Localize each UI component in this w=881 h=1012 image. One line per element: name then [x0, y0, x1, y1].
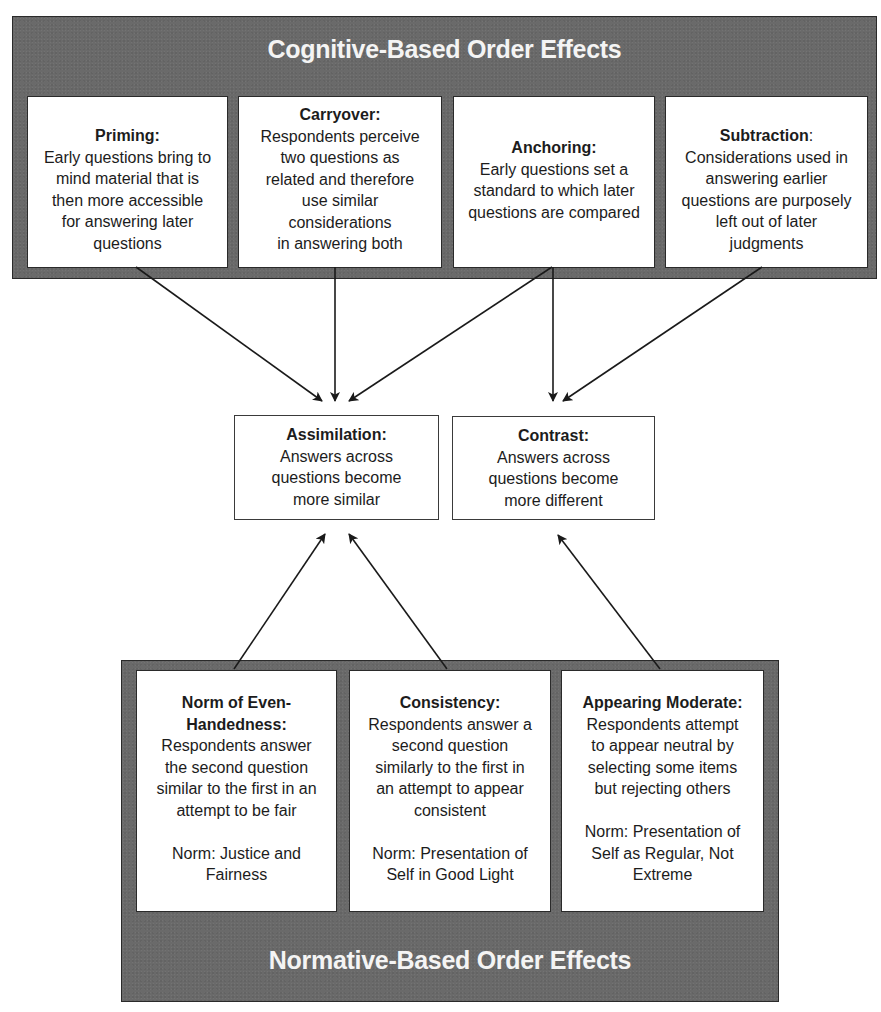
even-handedness-norm-line: Norm: Justice and	[172, 843, 301, 865]
arrow-even-handedness-to-assimilation	[234, 534, 325, 669]
subtraction-text-line: questions are purposely	[682, 190, 852, 212]
appearing-moderate-heading: Appearing Moderate:	[582, 692, 742, 714]
subtraction-text-line: Considerations used in	[685, 147, 848, 169]
assimilation-box: Assimilation: Answers across questions b…	[234, 415, 439, 520]
priming-text-line: mind material that is	[56, 168, 199, 190]
subtraction-text-line: answering earlier	[706, 168, 828, 190]
even-handedness-heading: Handedness:	[186, 714, 286, 736]
carryover-text-line: considerations	[288, 212, 391, 234]
arrow-anchoring-to-assimilation	[349, 267, 552, 401]
arrow-consistency-to-assimilation	[349, 534, 447, 669]
subtraction-heading-colon: :	[809, 127, 813, 144]
consistency-norm-line: Norm: Presentation of	[372, 843, 528, 865]
subtraction-box: Subtraction: Considerations used in answ…	[665, 96, 868, 268]
priming-heading: Priming:	[95, 125, 160, 147]
appearing-moderate-norm-line: Norm: Presentation of	[585, 821, 741, 843]
assimilation-text-line: more similar	[293, 489, 380, 511]
consistency-text-line: second question	[392, 735, 509, 757]
appearing-moderate-norm-line: Extreme	[633, 864, 693, 886]
priming-text-line: questions	[93, 233, 162, 255]
arrow-subtraction-to-contrast	[563, 267, 762, 401]
priming-box: Priming: Early questions bring to mind m…	[27, 96, 228, 268]
assimilation-text-line: Answers across	[280, 446, 393, 468]
arrow-appearing-moderate-to-contrast	[558, 535, 660, 669]
even-handedness-box: Norm of Even- Handedness: Respondents an…	[136, 670, 337, 912]
anchoring-box: Anchoring: Early questions set a standar…	[453, 96, 655, 268]
even-handedness-text-line: attempt to be fair	[176, 800, 296, 822]
priming-text-line: then more accessible	[52, 190, 203, 212]
consistency-text-line: an attempt to appear	[376, 778, 524, 800]
contrast-box: Contrast: Answers across questions becom…	[452, 416, 655, 520]
even-handedness-heading: Norm of Even-	[182, 692, 291, 714]
priming-text-line: for answering later	[62, 211, 194, 233]
contrast-text-line: more different	[504, 490, 602, 512]
arrow-priming-to-assimilation	[136, 267, 322, 401]
appearing-moderate-text-line: Respondents attempt	[586, 714, 738, 736]
even-handedness-text-line: the second question	[165, 757, 308, 779]
anchoring-text-line: questions are compared	[468, 202, 640, 224]
appearing-moderate-norm-line: Self as Regular, Not	[591, 843, 733, 865]
consistency-text-line: Respondents answer a	[368, 714, 532, 736]
appearing-moderate-text-line: selecting some items	[588, 757, 737, 779]
consistency-box: Consistency: Respondents answer a second…	[349, 670, 551, 912]
contrast-heading: Contrast:	[518, 425, 589, 447]
even-handedness-text-line: Respondents answer	[161, 735, 311, 757]
contrast-text-line: questions become	[489, 468, 619, 490]
subtraction-text-line: left out of later	[716, 211, 817, 233]
carryover-box: Carryover: Respondents perceive two ques…	[238, 96, 442, 268]
carryover-text-line: related and therefore	[266, 169, 415, 191]
carryover-text-line: use similar	[302, 190, 378, 212]
priming-text-line: Early questions bring to	[44, 147, 211, 169]
consistency-heading: Consistency:	[400, 692, 500, 714]
assimilation-heading: Assimilation:	[286, 424, 386, 446]
subtraction-text-line: judgments	[730, 233, 804, 255]
carryover-text-line: in answering both	[277, 233, 402, 255]
assimilation-text-line: questions become	[272, 467, 402, 489]
anchoring-text-line: standard to which later	[474, 180, 635, 202]
even-handedness-norm-line: Fairness	[206, 864, 267, 886]
anchoring-heading: Anchoring:	[511, 137, 596, 159]
contrast-text-line: Answers across	[497, 447, 610, 469]
subtraction-heading: Subtraction	[720, 127, 809, 144]
cognitive-panel-title: Cognitive-Based Order Effects	[13, 35, 876, 64]
normative-panel-title: Normative-Based Order Effects	[122, 946, 778, 975]
consistency-norm-line: Self in Good Light	[386, 864, 513, 886]
even-handedness-text-line: similar to the first in an	[156, 778, 316, 800]
carryover-text-line: two questions as	[280, 147, 399, 169]
appearing-moderate-text-line: but rejecting others	[594, 778, 730, 800]
appearing-moderate-box: Appearing Moderate: Respondents attempt …	[561, 670, 764, 912]
consistency-text-line: consistent	[414, 800, 486, 822]
appearing-moderate-text-line: to appear neutral by	[591, 735, 733, 757]
carryover-text-line: Respondents perceive	[260, 126, 419, 148]
consistency-text-line: similarly to the first in	[375, 757, 524, 779]
anchoring-text-line: Early questions set a	[480, 159, 629, 181]
carryover-heading: Carryover:	[300, 104, 381, 126]
